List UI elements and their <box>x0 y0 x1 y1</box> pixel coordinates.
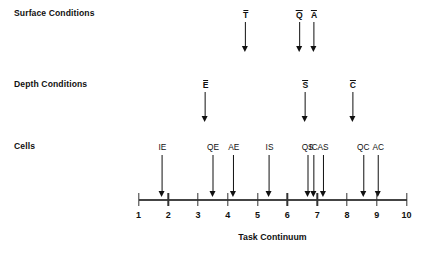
down-arrow-icon <box>202 92 209 122</box>
marker-label: AC <box>372 143 384 152</box>
down-arrow-icon <box>310 155 317 197</box>
marker-ic: IC <box>309 143 317 152</box>
marker-as: AS <box>318 143 329 152</box>
axis-tick-label: 3 <box>196 210 201 220</box>
axis-tick <box>316 193 317 206</box>
marker-q: Q <box>296 10 303 20</box>
axis-tick-label: 7 <box>315 210 320 220</box>
marker-ae: AE <box>228 143 239 152</box>
marker-ie: IE <box>158 143 166 152</box>
arrow-shaft <box>233 155 234 191</box>
down-arrow-icon <box>209 155 216 197</box>
arrow-shaft <box>323 155 324 191</box>
arrow-head <box>349 116 355 122</box>
down-arrow-icon <box>266 155 273 197</box>
arrow-shaft <box>212 155 213 191</box>
axis-tick-label: 8 <box>344 210 349 220</box>
marker-e: E <box>203 80 209 90</box>
marker-label: S <box>302 80 308 90</box>
down-arrow-icon <box>320 155 327 197</box>
arrow-head <box>159 191 165 197</box>
axis-tick <box>376 193 377 206</box>
marker-s: S <box>302 80 308 90</box>
axis-title: Task Continuum <box>238 232 306 242</box>
row-label-cells: Cells <box>14 141 35 151</box>
axis-tick-label: 5 <box>255 210 260 220</box>
down-arrow-icon <box>230 155 237 197</box>
axis-line <box>139 199 407 201</box>
down-arrow-icon <box>311 22 318 52</box>
down-arrow-icon <box>242 22 249 52</box>
axis-tick-label: 10 <box>401 210 411 220</box>
arrow-head <box>302 116 308 122</box>
arrow-head <box>360 191 366 197</box>
arrow-shaft <box>205 92 206 116</box>
arrow-shaft <box>269 155 270 191</box>
down-arrow-icon <box>349 92 356 122</box>
axis-tick <box>168 193 169 206</box>
arrow-shaft <box>363 155 364 191</box>
marker-is: IS <box>266 143 274 152</box>
marker-a: A <box>311 10 317 20</box>
marker-label: T <box>243 10 248 20</box>
down-arrow-icon <box>296 22 303 52</box>
axis-tick <box>287 193 288 206</box>
axis-tick <box>406 193 407 206</box>
marker-qe: QE <box>207 143 219 152</box>
arrow-head <box>202 116 208 122</box>
axis-tick <box>227 193 228 206</box>
arrow-head <box>310 191 316 197</box>
marker-label: AS <box>318 143 329 152</box>
arrow-shaft <box>162 155 163 191</box>
down-arrow-icon <box>159 155 166 197</box>
marker-qc: QC <box>357 143 369 152</box>
axis-tick-label: 2 <box>166 210 171 220</box>
arrow-shaft <box>378 155 379 191</box>
arrow-head <box>311 46 317 52</box>
arrow-head <box>296 46 302 52</box>
axis-tick-label: 6 <box>285 210 290 220</box>
marker-label: IS <box>266 143 274 152</box>
arrow-head <box>266 191 272 197</box>
row-label-surface-conditions: Surface Conditions <box>14 8 95 18</box>
marker-ac: AC <box>372 143 384 152</box>
axis-tick <box>138 193 139 206</box>
marker-label: AE <box>228 143 239 152</box>
axis-tick-label: 9 <box>374 210 379 220</box>
arrow-shaft <box>352 92 353 116</box>
marker-label: E <box>203 80 209 90</box>
arrow-shaft <box>314 22 315 46</box>
marker-label: QE <box>207 143 219 152</box>
down-arrow-icon <box>302 92 309 122</box>
marker-label: Q <box>296 10 303 20</box>
down-arrow-icon <box>360 155 367 197</box>
axis-tick <box>346 193 347 206</box>
arrow-head <box>230 191 236 197</box>
axis-tick-label: 1 <box>136 210 141 220</box>
task-continuum-figure: Surface Conditions Depth Conditions Cell… <box>0 0 423 261</box>
marker-label: A <box>311 10 317 20</box>
marker-c: C <box>350 80 356 90</box>
arrow-head <box>209 191 215 197</box>
row-label-depth-conditions: Depth Conditions <box>14 79 87 89</box>
marker-label: IC <box>309 143 317 152</box>
marker-t: T <box>243 10 248 20</box>
axis-tick-label: 4 <box>225 210 230 220</box>
marker-label: QC <box>357 143 369 152</box>
arrow-head <box>242 46 248 52</box>
arrow-shaft <box>299 22 300 46</box>
down-arrow-icon <box>375 155 382 197</box>
marker-label: IE <box>158 143 166 152</box>
axis-tick <box>197 193 198 206</box>
arrow-head <box>320 191 326 197</box>
marker-label: C <box>350 80 356 90</box>
axis-tick <box>257 193 258 206</box>
arrow-shaft <box>305 92 306 116</box>
arrow-shaft <box>245 22 246 46</box>
arrow-shaft <box>313 155 314 191</box>
arrow-shaft <box>307 155 308 191</box>
